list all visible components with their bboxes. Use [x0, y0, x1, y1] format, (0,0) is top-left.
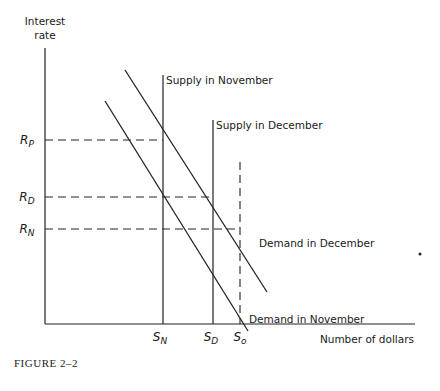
tick-sn: SN — [153, 330, 168, 346]
tick-so: So — [233, 330, 247, 346]
supply-december-label: Supply in December — [216, 119, 323, 131]
demand-november-label: Demand in November — [249, 313, 365, 325]
y-axis-label-1: Interest — [25, 15, 65, 27]
figure-caption: FIGURE 2–2 — [14, 357, 78, 369]
y-axis-label-2: rate — [34, 29, 55, 41]
tick-rp: RP — [20, 133, 34, 149]
tick-sd: SD — [204, 330, 219, 346]
tick-rd: RD — [19, 190, 34, 206]
x-axis-label: Number of dollars — [320, 333, 414, 345]
demand-december-label: Demand in December — [259, 237, 375, 249]
stray-dot — [419, 253, 422, 256]
demand-november-line — [105, 101, 248, 331]
supply-demand-diagram: Interest rate Number of dollars RP RD RN… — [0, 0, 440, 391]
tick-rn: RN — [19, 222, 34, 238]
supply-november-label: Supply in November — [166, 74, 273, 86]
demand-december-line — [125, 70, 267, 292]
